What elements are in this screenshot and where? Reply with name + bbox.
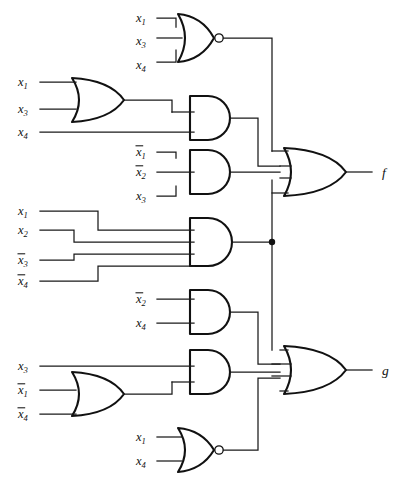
variable-text: x3 (17, 253, 28, 269)
input-label-n1-x3: x3 (135, 34, 146, 50)
input-label-o1-x1: x1 (17, 75, 28, 91)
input-label-d-x2: x2 (135, 292, 147, 308)
variable-text: x3 (17, 102, 28, 118)
gate-or-a[interactable] (72, 78, 124, 122)
input-label-e-x3: x3 (17, 359, 28, 375)
variable-text: x3 (135, 34, 146, 50)
variable-text: x1 (135, 11, 146, 27)
gate-and-a[interactable] (190, 96, 230, 140)
variable-text: x2 (17, 223, 29, 239)
input-label-n2-x1: x1 (135, 430, 146, 446)
input-label-o2-x4: x4 (17, 407, 29, 423)
input-label-b-x1: x1 (135, 145, 146, 161)
variable-text: x4 (17, 407, 29, 423)
input-label-n1-x4: x4 (135, 58, 147, 74)
variable-text: x3 (17, 359, 28, 375)
variable-text: x2 (135, 292, 147, 308)
gate-nor-top[interactable] (178, 14, 223, 62)
input-label-c-x1: x1 (17, 204, 28, 220)
input-label-b-x3: x3 (135, 189, 146, 205)
gate-and-e[interactable] (190, 350, 230, 394)
input-label-c-x4: x4 (17, 274, 29, 290)
variable-text: x3 (135, 189, 146, 205)
input-label-o2-x1: x1 (17, 383, 28, 399)
variable-text: x4 (17, 125, 29, 141)
variable-text: x1 (135, 430, 146, 446)
variable-text: x1 (135, 145, 146, 161)
input-label-c-x2: x2 (17, 223, 29, 239)
output-label-f: f (382, 165, 388, 180)
variable-text: x1 (17, 383, 28, 399)
variable-text: x4 (135, 316, 147, 332)
input-label-n1-x1: x1 (135, 11, 146, 27)
variable-text: x4 (135, 58, 147, 74)
output-label-g: g (382, 363, 389, 378)
gate-or-b[interactable] (72, 372, 124, 416)
gate-and-c[interactable] (190, 218, 232, 266)
gate-nor-bot[interactable] (178, 428, 223, 472)
variable-text: x1 (17, 204, 28, 220)
input-label-b-x2: x2 (135, 165, 147, 181)
gate-or-g[interactable] (284, 346, 346, 394)
wires-and-c (40, 180, 275, 350)
gate-and-b[interactable] (190, 150, 230, 194)
input-label-a1-x4: x4 (17, 125, 29, 141)
input-label-d-x4: x4 (135, 316, 147, 332)
logic-circuit-diagram: f g x1x3x4x1x3x4x1x2x3x1x2x3x4x2x4x3x1x4… (0, 0, 405, 480)
gate-or-f[interactable] (284, 148, 346, 196)
input-label-c-x3: x3 (17, 253, 28, 269)
input-label-o1-x3: x3 (17, 102, 28, 118)
circuit-canvas: f g x1x3x4x1x3x4x1x2x3x1x2x3x4x2x4x3x1x4… (0, 0, 405, 480)
variable-text: x4 (17, 274, 29, 290)
variable-text: x1 (17, 75, 28, 91)
input-label-n2-x4: x4 (135, 454, 147, 470)
gate-and-d[interactable] (190, 290, 230, 334)
variable-text: x2 (135, 165, 147, 181)
variable-text: x4 (135, 454, 147, 470)
